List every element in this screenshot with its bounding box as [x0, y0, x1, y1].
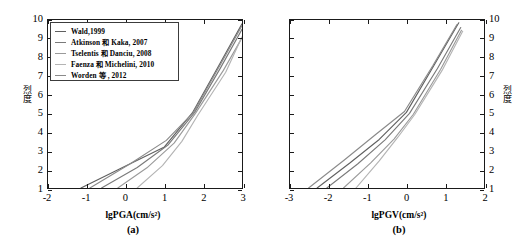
y-tick-8	[238, 57, 242, 58]
y-tick-1	[48, 190, 52, 191]
y-tick-10	[290, 20, 294, 21]
legend-item-4: Worden 等 , 2012	[55, 70, 178, 81]
y-tick-10	[238, 20, 242, 21]
x-tick-label--3: -3	[276, 193, 302, 204]
legend-item-0: Wald,1999	[55, 26, 178, 37]
y-tick-label-7: 7	[489, 71, 511, 82]
legend-item-3: Faenza 和 Michelini, 2010	[55, 59, 178, 70]
x-tick-label--1: -1	[73, 193, 99, 204]
x-tick--3	[290, 20, 291, 24]
y-tick-3	[480, 152, 484, 153]
legend-label-2: Tselentis 和 Danciu, 2008	[71, 50, 152, 57]
legend-label-3: Faenza 和 Michelini, 2010	[71, 61, 154, 68]
curve-tselentis-danciu-2008	[344, 30, 462, 188]
panel-a: 12345678910 -2-10123 烈度 lgPGA(cm/s²) (a)…	[0, 0, 266, 248]
y-axis-title-a: 烈度	[22, 86, 33, 105]
x-tick-1	[165, 184, 166, 188]
x-tick--3	[290, 184, 291, 188]
y-tick-1	[238, 190, 242, 191]
y-tick-2	[290, 171, 294, 172]
curve-wald-1999	[317, 23, 459, 188]
x-tick-label-1: 1	[152, 193, 178, 204]
y-tick-4	[480, 133, 484, 134]
y-tick-label-5: 5	[21, 108, 43, 119]
x-tick--2	[329, 184, 330, 188]
x-tick-0	[407, 20, 408, 24]
y-tick-3	[48, 152, 52, 153]
y-tick-label-2: 2	[21, 165, 43, 176]
y-tick-7	[290, 76, 294, 77]
y-tick-label-9: 9	[489, 33, 511, 44]
legend-swatch-icon-1	[55, 42, 66, 43]
x-tick-2	[204, 20, 205, 24]
x-tick-label-0: 0	[112, 193, 138, 204]
y-tick-4	[238, 133, 242, 134]
y-tick-5	[290, 114, 294, 115]
figure-two-panel-intensity-conversion: 12345678910 -2-10123 烈度 lgPGA(cm/s²) (a)…	[0, 0, 532, 248]
y-tick-label-8: 8	[489, 52, 511, 63]
y-tick-1	[290, 190, 294, 191]
y-tick-9	[290, 38, 294, 39]
x-tick-label--2: -2	[315, 193, 341, 204]
x-tick--2	[48, 184, 49, 188]
y-tick-8	[480, 57, 484, 58]
y-tick-label-2: 2	[489, 165, 511, 176]
panel-b: 12345678910 -3-2-1012 烈度 lgPGV(cm/s²) (b…	[266, 0, 532, 248]
y-tick-label-4: 4	[489, 127, 511, 138]
y-tick-2	[238, 171, 242, 172]
y-tick-2	[480, 171, 484, 172]
x-tick-label-0: 0	[394, 193, 420, 204]
x-tick-label--2: -2	[34, 193, 60, 204]
y-tick-7	[480, 76, 484, 77]
y-axis-title-b: 烈度	[502, 86, 513, 105]
legend-swatch-icon-4	[55, 75, 66, 76]
y-tick-6	[290, 95, 294, 96]
legend-item-2: Tselentis 和 Danciu, 2008	[55, 48, 178, 59]
y-tick-10	[48, 20, 52, 21]
y-tick-9	[238, 38, 242, 39]
legend-swatch-icon-3	[55, 64, 66, 65]
x-tick-2	[204, 184, 205, 188]
y-tick-4	[48, 133, 52, 134]
y-tick-9	[480, 38, 484, 39]
plot-area-b	[289, 19, 485, 189]
legend-label-0: Wald,1999	[71, 28, 105, 35]
y-tick-label-9: 9	[21, 33, 43, 44]
x-tick-1	[446, 20, 447, 24]
x-tick--1	[87, 184, 88, 188]
y-tick-6	[480, 95, 484, 96]
panel-label-a: (a)	[0, 225, 266, 236]
x-tick--2	[48, 20, 49, 24]
curves-b	[290, 20, 484, 188]
x-tick-3	[244, 184, 245, 188]
x-tick-2	[486, 20, 487, 24]
x-tick-0	[407, 184, 408, 188]
legend-item-1: Atkinson 和 Kaka, 2007	[55, 37, 178, 48]
x-tick--2	[329, 20, 330, 24]
curve-faenza-michelini-2010	[356, 31, 463, 188]
x-tick-3	[244, 20, 245, 24]
y-tick-8	[290, 57, 294, 58]
y-tick-4	[290, 133, 294, 134]
y-tick-label-5: 5	[489, 108, 511, 119]
x-axis-title-a: lgPGA(cm/s²)	[0, 211, 266, 221]
y-tick-label-10: 10	[21, 14, 43, 25]
legend-label-4: Worden 等 , 2012	[71, 72, 127, 79]
legend-swatch-icon-2	[55, 53, 66, 54]
y-tick-label-8: 8	[21, 52, 43, 63]
legend-swatch-icon-0	[55, 31, 66, 32]
y-tick-3	[290, 152, 294, 153]
panel-label-b: (b)	[266, 225, 532, 236]
x-tick-label-2: 2	[191, 193, 217, 204]
y-tick-5	[48, 114, 52, 115]
y-tick-5	[238, 114, 242, 115]
y-tick-1	[480, 190, 484, 191]
curve-lines-b	[290, 20, 484, 188]
x-tick-label--1: -1	[354, 193, 380, 204]
x-tick-label-1: 1	[433, 193, 459, 204]
y-tick-label-3: 3	[489, 146, 511, 157]
y-tick-5	[480, 114, 484, 115]
y-tick-3	[238, 152, 242, 153]
y-tick-label-10: 10	[489, 14, 511, 25]
x-tick-0	[126, 184, 127, 188]
